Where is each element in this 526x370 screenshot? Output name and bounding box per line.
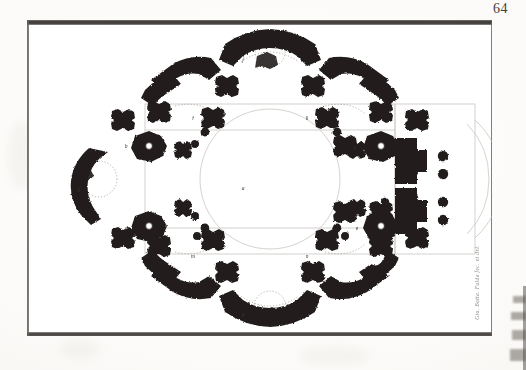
plan-label-g: g [242, 311, 245, 317]
engraver-signature: Gio. Batta. Falda fec. et del. [474, 245, 480, 320]
plan-label-l: l [192, 115, 194, 121]
masonry-poche [71, 29, 448, 327]
plan-key-letters: a b c d e f g h i k l m n [78, 57, 414, 317]
plan-label-f: f [242, 57, 245, 63]
church-floor-plan: a b c d e f g h i k l m n [27, 20, 492, 336]
plan-label-m: m [191, 253, 195, 259]
plan-label-d: d [125, 225, 128, 231]
paper-stain [300, 348, 370, 364]
paper-stain [60, 340, 100, 358]
scanned-page: 64 [0, 0, 526, 370]
folio-number: 64 [493, 1, 508, 17]
plate-frame: a b c d e f g h i k l m n Gio. Batta. Fa… [27, 20, 492, 336]
plan-label-b: b [125, 143, 128, 149]
plan-label-n: n [306, 253, 309, 259]
plan-label-a: a [242, 185, 245, 191]
plan-label-h: h [78, 187, 81, 193]
